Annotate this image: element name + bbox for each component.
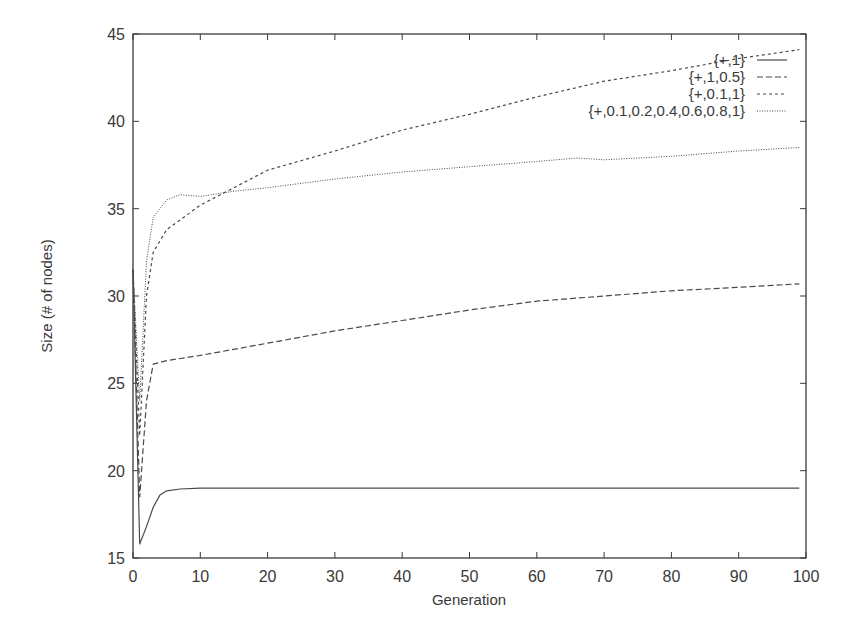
y-tick-label: 30 [107,288,125,305]
x-tick-label: 20 [259,568,277,585]
x-tick-label: 30 [326,568,344,585]
x-tick-label: 90 [730,568,748,585]
x-tick-label: 80 [663,568,681,585]
y-tick-label: 25 [107,375,125,392]
line-chart: 0102030405060708090100 15202530354045 {+… [0,0,852,629]
legend-label: {+,1,0.5} [689,68,745,85]
x-axis-label: Generation [432,591,506,608]
legend-label: {+,0.1,0.2,0.4,0.6,0.8,1} [589,102,745,119]
x-tick-label: 10 [191,568,209,585]
y-tick-label: 15 [107,550,125,567]
y-tick-label: 45 [107,26,125,43]
legend-label: {+,0.1,1} [689,85,745,102]
x-tick-label: 50 [461,568,479,585]
y-tick-label: 40 [107,113,125,130]
x-tick-label: 40 [393,568,411,585]
legend-label: {+,1} [714,51,745,68]
y-tick-label: 35 [107,201,125,218]
y-axis-label: Size (# of nodes) [38,239,55,352]
series-line-4 [133,148,799,401]
x-tick-label: 70 [595,568,613,585]
x-tick-label: 100 [793,568,820,585]
series-line-2 [133,270,799,497]
x-tick-label: 60 [528,568,546,585]
legend: {+,1}{+,1,0.5}{+,0.1,1}{+,0.1,0.2,0.4,0.… [589,51,787,119]
y-tick-label: 20 [107,463,125,480]
series-group [133,50,799,544]
x-tick-label: 0 [129,568,138,585]
